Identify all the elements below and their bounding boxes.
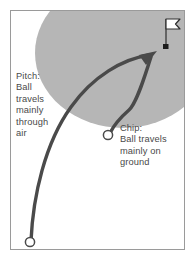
chip-ball-marker	[103, 130, 112, 139]
chip-annotation-label: Chip: Ball travels mainly on ground	[120, 123, 167, 169]
hole-marker	[163, 44, 169, 49]
pitch-annotation-label: Pitch: Ball travels mainly through air	[16, 71, 48, 139]
pitch-ball-marker	[25, 237, 34, 246]
figure-frame: Pitch: Ball travels mainly through air C…	[10, 10, 185, 250]
figure-canvas: Pitch: Ball travels mainly through air C…	[0, 0, 196, 267]
